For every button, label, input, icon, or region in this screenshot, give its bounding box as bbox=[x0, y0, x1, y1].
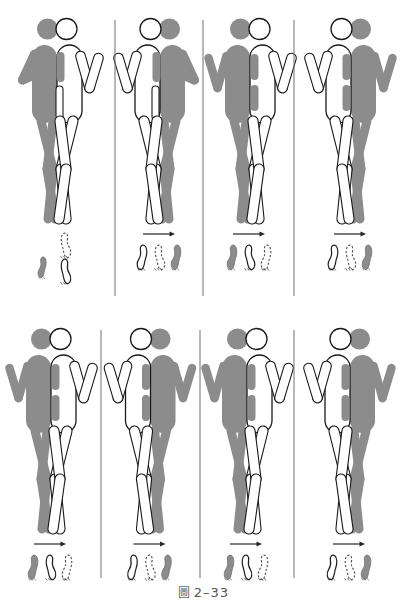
panel-4-leg-white-b-thigh bbox=[342, 121, 348, 169]
panel-4-torsos bbox=[326, 45, 376, 123]
panel-2-far-upperarm bbox=[153, 52, 161, 82]
figure-caption: 圖2–33 bbox=[0, 583, 407, 600]
panel-3-legs bbox=[234, 121, 266, 219]
panel-3-foot-white-1-toe bbox=[247, 268, 249, 270]
panel-8-leg-gray-b-thigh bbox=[354, 431, 360, 479]
panel-6-arm-white bbox=[109, 366, 127, 398]
panel-1-foot-0-toe bbox=[43, 276, 45, 278]
panel-3-leg-white-b-thigh bbox=[253, 121, 259, 169]
panel-5-foot-white-1-toe bbox=[48, 578, 50, 580]
panel-group-6 bbox=[109, 329, 192, 581]
panel-5-foot-white-1-toe bbox=[46, 578, 48, 580]
panel-7-foot-dashed-2-toe bbox=[264, 578, 266, 580]
panel-5-far-forearm bbox=[52, 395, 60, 421]
panel-1-leg-white-b-thigh bbox=[60, 121, 66, 169]
panel-8-head-white bbox=[330, 329, 351, 350]
panel-2-direction-arrow bbox=[143, 231, 175, 236]
figure-root bbox=[0, 0, 407, 613]
panel-2-heads bbox=[140, 19, 180, 40]
panel-7-leg-gray-b-thigh bbox=[237, 431, 243, 479]
panel-6-heads bbox=[131, 329, 171, 350]
panel-6-torsos bbox=[126, 355, 176, 433]
panel-2-foot-white-0 bbox=[137, 245, 147, 270]
panel-7-direction-arrow bbox=[230, 541, 262, 546]
panel-2-head-gray bbox=[159, 19, 180, 40]
panel-2-arm-gray-fore bbox=[181, 74, 195, 80]
panel-7-foot-gray-0-toe bbox=[230, 578, 232, 580]
panel-1-arm-white bbox=[81, 56, 99, 88]
panel-4-head-gray bbox=[350, 19, 371, 40]
panel-4-direction-arrow bbox=[334, 231, 366, 236]
panel-1-leg-gray-b-thigh bbox=[47, 121, 53, 169]
panel-5-legs bbox=[35, 431, 67, 529]
panel-4-direction-arrow-head bbox=[361, 231, 367, 236]
panel-6-far-forearm bbox=[142, 395, 150, 421]
panel-5-direction-arrow bbox=[34, 541, 66, 546]
panel-1-footprints bbox=[38, 233, 71, 284]
panel-8-direction-arrow bbox=[333, 541, 365, 546]
panel-4-arm-gray bbox=[375, 56, 393, 88]
panel-3-foot-dashed-2-toe bbox=[267, 268, 269, 270]
panel-4-arm-gray-fore bbox=[384, 58, 393, 88]
panel-8-arm-white bbox=[309, 366, 327, 398]
panel-5-head-white bbox=[50, 329, 71, 350]
panel-7-footprints bbox=[224, 541, 268, 580]
panel-2-direction-arrow-head bbox=[170, 231, 176, 236]
panel-4-footprints bbox=[328, 231, 372, 270]
panel-8-arm-gray-fore bbox=[383, 368, 392, 398]
panel-6-foot-gray-2-toe bbox=[168, 578, 170, 580]
panel-group-3 bbox=[209, 19, 292, 271]
panel-6-head-gray bbox=[150, 329, 171, 350]
panel-3-torsos bbox=[225, 45, 275, 123]
panel-2-legs bbox=[144, 121, 176, 219]
panel-8-footprints bbox=[327, 541, 371, 580]
panel-8-foot-white-0-toe bbox=[333, 578, 335, 580]
panel-8-foot-dashed-1-toe bbox=[345, 578, 347, 580]
panel-8-head-gray bbox=[349, 329, 370, 350]
panel-8-direction-arrow-head bbox=[360, 541, 366, 546]
panel-3-arm-white bbox=[274, 56, 292, 88]
panel-7-arm-gray bbox=[206, 366, 224, 398]
panel-5-foot-dashed-2 bbox=[62, 555, 72, 580]
panel-5-head-gray bbox=[31, 329, 52, 350]
panel-3-far-forearm bbox=[251, 85, 259, 111]
panel-3-head-white bbox=[249, 19, 270, 40]
panel-4-head-white bbox=[331, 19, 352, 40]
panel-1-far-upperarm bbox=[57, 52, 65, 82]
panel-2-foot-dashed-1-toe bbox=[155, 268, 157, 270]
panel-4-arm-white-fore bbox=[310, 58, 319, 88]
panel-2-foot-gray-2 bbox=[171, 245, 181, 270]
panel-4-foot-white-0-toe bbox=[334, 268, 336, 270]
panel-5-arm-gray-fore bbox=[10, 368, 19, 398]
panel-5-heads bbox=[31, 329, 71, 350]
caption-label: 2–33 bbox=[194, 585, 229, 600]
panel-1-foot-1-toe bbox=[63, 282, 65, 284]
panel-4-foot-gray-2 bbox=[362, 245, 372, 270]
panel-3-leg-gray-b-thigh bbox=[240, 121, 246, 169]
panel-1-head-gray bbox=[37, 19, 58, 40]
panel-3-head-gray bbox=[230, 19, 251, 40]
panel-7-arm-gray-fore bbox=[206, 368, 215, 398]
panel-2-arm-white-fore bbox=[119, 58, 128, 88]
panel-3-heads bbox=[230, 19, 270, 40]
panel-3-direction-arrow-head bbox=[260, 231, 266, 236]
panel-6-foot-dashed-1-toe bbox=[145, 578, 147, 580]
panel-1-foot-1 bbox=[61, 259, 71, 284]
panel-3-foot-white-1 bbox=[245, 245, 255, 270]
panel-3-foot-white-1-toe bbox=[245, 268, 247, 270]
panel-5-torsos bbox=[26, 355, 76, 433]
panel-3-arm-white-fore bbox=[283, 58, 292, 88]
panel-6-direction-arrow-head bbox=[160, 541, 166, 546]
panel-1-arm-gray-fore bbox=[23, 74, 37, 80]
panel-4-leg-gray-b-thigh bbox=[355, 121, 361, 169]
panel-4-far-upperarm bbox=[343, 54, 351, 80]
panel-7-far-upperarm bbox=[248, 364, 256, 390]
panel-6-foot-white-0 bbox=[128, 555, 138, 580]
panel-8-heads bbox=[330, 329, 370, 350]
panel-2-arm-white bbox=[119, 56, 137, 88]
panel-2-foot-dashed-1 bbox=[155, 245, 165, 270]
panel-2-foot-white-0-toe bbox=[143, 268, 145, 270]
panel-8-leg-white-b-thigh bbox=[341, 431, 347, 479]
panel-8-far-forearm bbox=[342, 395, 350, 421]
panel-6-arm-gray bbox=[174, 366, 192, 398]
